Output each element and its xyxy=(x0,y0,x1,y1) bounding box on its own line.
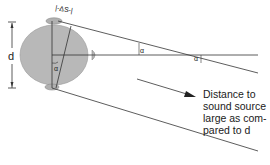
alpha-far-label: α xyxy=(194,55,198,62)
delta-s-label: |-ΔS-| xyxy=(55,4,74,15)
caption-line-3: large as com- xyxy=(203,112,267,124)
caption-line-1: Distance to xyxy=(203,88,267,100)
caption-line-4: pared to d xyxy=(203,124,267,136)
distance-caption: Distance to sound source large as com- p… xyxy=(203,88,267,136)
head-icon xyxy=(20,18,95,90)
caption-line-2: sound source xyxy=(203,100,267,112)
alpha-mid-label: α xyxy=(140,47,144,54)
alpha-head-label: α xyxy=(54,65,58,72)
sound-localization-diagram: d α |-ΔS-| α α xyxy=(0,0,270,165)
direction-arrow-icon xyxy=(137,79,196,97)
upper-ray-line xyxy=(58,21,258,73)
d-label: d xyxy=(8,50,14,62)
